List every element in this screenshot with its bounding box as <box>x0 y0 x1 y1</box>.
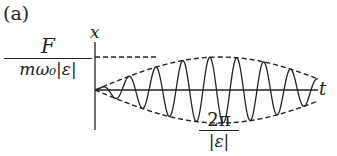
beat-plot <box>0 0 337 156</box>
envelope-lower <box>95 90 318 123</box>
